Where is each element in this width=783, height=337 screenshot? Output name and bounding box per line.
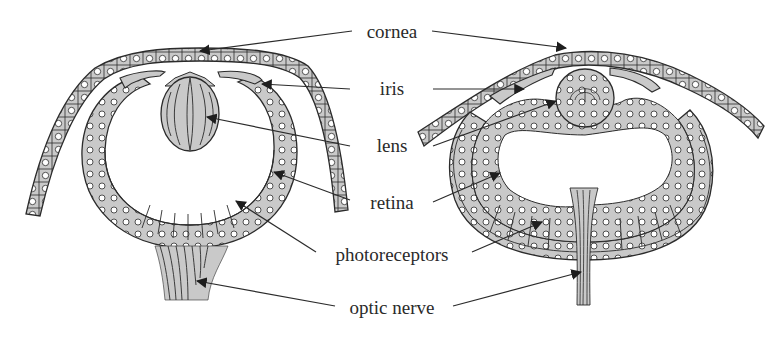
diagram-canvas — [0, 0, 783, 337]
leader-optic-nerve-right — [453, 272, 581, 306]
left-eye-lens — [161, 72, 219, 151]
leader-cornea-right — [432, 31, 566, 48]
label-lens: lens — [377, 136, 408, 155]
left-eye-optic-nerve — [155, 246, 228, 300]
label-cornea: cornea — [367, 22, 418, 41]
right-eye-lens — [556, 69, 614, 127]
leader-optic-nerve-left — [197, 281, 335, 306]
label-retina: retina — [370, 193, 413, 212]
eye-comparison-diagram: cornea iris lens retina photoreceptors o… — [0, 0, 783, 337]
label-optic-nerve: optic nerve — [350, 298, 435, 317]
label-photoreceptors: photoreceptors — [336, 245, 449, 264]
leader-cornea-left — [200, 31, 352, 51]
label-iris: iris — [380, 79, 404, 98]
